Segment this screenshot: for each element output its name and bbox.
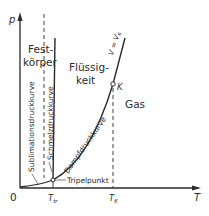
vapor-curve-label: Dampfdruckkurve [62, 115, 108, 175]
x-axis-label: T [194, 192, 201, 203]
sublimation-leader [32, 174, 38, 184]
x-axis [20, 186, 201, 191]
phase-diagram: p T 0 Ttr TK Fest- körper Flüssig- keit … [0, 0, 209, 216]
region-liquid-line2: keit [76, 74, 95, 86]
y-axis [18, 12, 23, 188]
isochore-label: V = VK [106, 30, 122, 57]
x-tick-tk: TK [109, 193, 118, 204]
critical-point-label: K [117, 82, 124, 92]
sublimation-curve-label: Sublimationsdruckkurve [27, 81, 36, 172]
melting-curve-label: Schmelzdruckkurve [46, 86, 55, 160]
y-axis-arrow-icon [18, 12, 23, 21]
origin-label: 0 [10, 191, 17, 203]
x-axis-arrow-icon [192, 186, 201, 191]
melting-leader [49, 162, 52, 172]
region-liquid-line1: Flüssig- [69, 61, 109, 73]
critical-point-marker [111, 82, 115, 86]
y-axis-label: p [8, 14, 15, 25]
vapor-pressure-curve [53, 38, 125, 180]
triple-point-label: Tripelpunkt [66, 176, 109, 185]
region-solid-line2: körper [23, 56, 58, 68]
x-tick-ttr: Ttr [48, 193, 58, 204]
region-solid-line1: Fest- [28, 43, 54, 55]
region-gas: Gas [125, 98, 145, 110]
triple-point-marker [51, 178, 55, 182]
